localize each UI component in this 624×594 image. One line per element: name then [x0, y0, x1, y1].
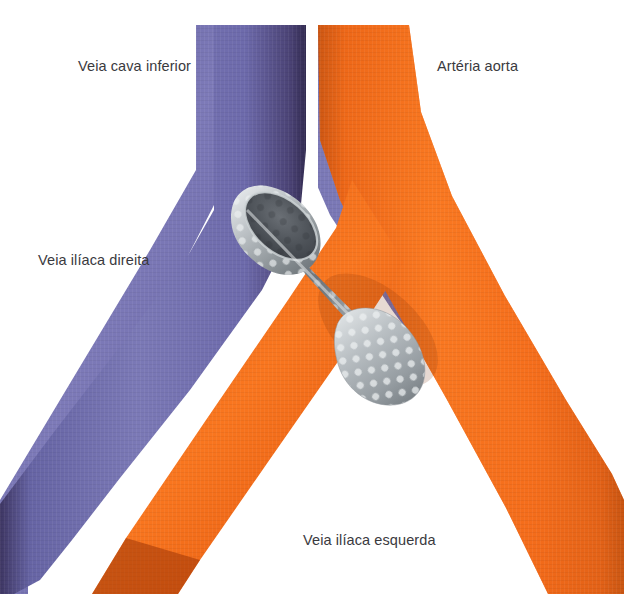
label-aorta: Artéria aorta	[437, 59, 518, 74]
vessel-group	[0, 25, 624, 594]
label-inferior-vena-cava: Veia cava inferior	[78, 59, 191, 74]
vessel-separator	[306, 25, 318, 215]
vascular-anatomy-illustration	[0, 0, 624, 594]
illustration-page: Veia cava inferior Artéria aorta Veia il…	[0, 0, 624, 594]
label-right-iliac-vein: Veia ilíaca direita	[38, 253, 150, 268]
label-left-iliac-vein: Veia ilíaca esquerda	[303, 533, 436, 548]
